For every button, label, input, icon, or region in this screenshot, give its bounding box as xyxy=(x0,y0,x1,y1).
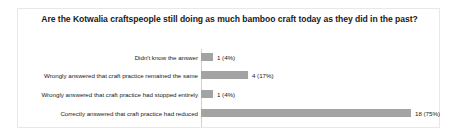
chart-title: Are the Kotwalia craftspeople still doin… xyxy=(28,14,431,26)
bar-track xyxy=(201,90,213,98)
bar-chart-card: Are the Kotwalia craftspeople still doin… xyxy=(17,8,440,128)
bar-track xyxy=(201,71,248,79)
bar-data-label: 1 (4%) xyxy=(217,54,235,61)
bar-track xyxy=(201,53,213,61)
bar-category-label: Wrongly answered that craft practice rem… xyxy=(44,72,198,79)
bar-data-label: 1 (4%) xyxy=(217,91,235,98)
bar-row: Didn't know the answer 1 (4%) xyxy=(18,49,441,65)
bar-row: Wrongly answered that craft practice had… xyxy=(18,86,441,102)
bar-segment xyxy=(201,53,213,61)
bar-data-label: 18 (75%) xyxy=(415,110,440,117)
bar-segment xyxy=(201,109,411,117)
bar-track xyxy=(201,109,411,117)
bar-row: Correctly answered that craft practice h… xyxy=(18,105,441,121)
bar-category-label: Didn't know the answer xyxy=(135,54,198,61)
bar-row: Wrongly answered that craft practice rem… xyxy=(18,67,441,83)
bar-category-label: Correctly answered that craft practice h… xyxy=(60,110,198,117)
bar-data-label: 4 (17%) xyxy=(252,72,274,79)
bar-segment xyxy=(201,90,213,98)
plot-area: Didn't know the answer 1 (4%) Wrongly an… xyxy=(18,49,441,127)
bar-segment xyxy=(201,71,248,79)
bar-category-label: Wrongly answered that craft practice had… xyxy=(41,91,198,98)
